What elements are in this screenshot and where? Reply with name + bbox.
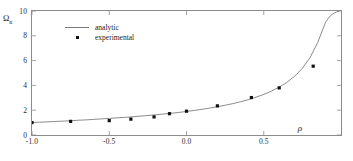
experimental-data-points — [32, 65, 315, 125]
x-axis-label: ρ — [298, 123, 302, 133]
legend-dot-key — [64, 36, 90, 39]
legend-line-key — [64, 27, 90, 28]
experimental-point — [278, 86, 281, 89]
x-tick-label: -0.5 — [98, 137, 120, 146]
experimental-point — [250, 96, 253, 99]
x-tick-label: 0.0 — [176, 137, 198, 146]
legend-item-analytic: analytic — [64, 22, 134, 32]
legend-label-experimental: experimental — [95, 33, 134, 42]
legend-item-experimental: experimental — [64, 32, 134, 42]
chart-figure: Ωn analytic experimental -1.0-0.50.00.5 … — [0, 0, 353, 161]
y-tick-label: 8 — [9, 31, 27, 40]
experimental-point — [108, 119, 111, 122]
chart-legend: analytic experimental — [64, 22, 134, 42]
experimental-point — [216, 104, 219, 107]
y-tick-label: 0 — [9, 131, 27, 140]
legend-label-analytic: analytic — [95, 23, 119, 32]
y-tick-label: 10 — [9, 7, 27, 16]
experimental-point — [69, 120, 72, 123]
experimental-point — [129, 118, 132, 121]
experimental-point — [32, 121, 34, 124]
y-tick-label: 4 — [9, 81, 27, 90]
y-axis-label-subscript: n — [9, 19, 12, 25]
y-tick-label: 2 — [9, 106, 27, 115]
experimental-point — [185, 110, 188, 113]
experimental-point — [152, 115, 155, 118]
experimental-point — [168, 112, 171, 115]
y-tick-label: 6 — [9, 56, 27, 65]
x-tick-label: 0.5 — [253, 137, 275, 146]
experimental-point — [312, 65, 315, 68]
